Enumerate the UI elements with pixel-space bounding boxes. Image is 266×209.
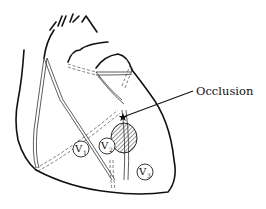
coronary-vessels [33,58,132,180]
svg-text:V: V [74,143,83,154]
svg-text:1: 1 [83,149,87,156]
left-atrial-appendage [68,42,108,62]
occlusion-label: Occlusion [196,84,254,98]
right-atrium-outline [16,50,36,170]
svg-text:V: V [100,140,109,151]
ventricle-outline [36,70,175,194]
occlusion-marker [119,91,193,121]
lead-v2: V 2 [99,138,115,154]
heart-diagram: Occlusion V 1 V 2 V 3 [0,0,266,209]
great-vessels [44,14,97,58]
svg-text:2: 2 [109,146,113,153]
lead-v3: V 3 [137,164,153,180]
svg-text:V: V [138,166,147,177]
left-ventricle-top [96,54,132,70]
svg-text:3: 3 [147,172,151,179]
lead-v1: V 1 [73,141,89,157]
